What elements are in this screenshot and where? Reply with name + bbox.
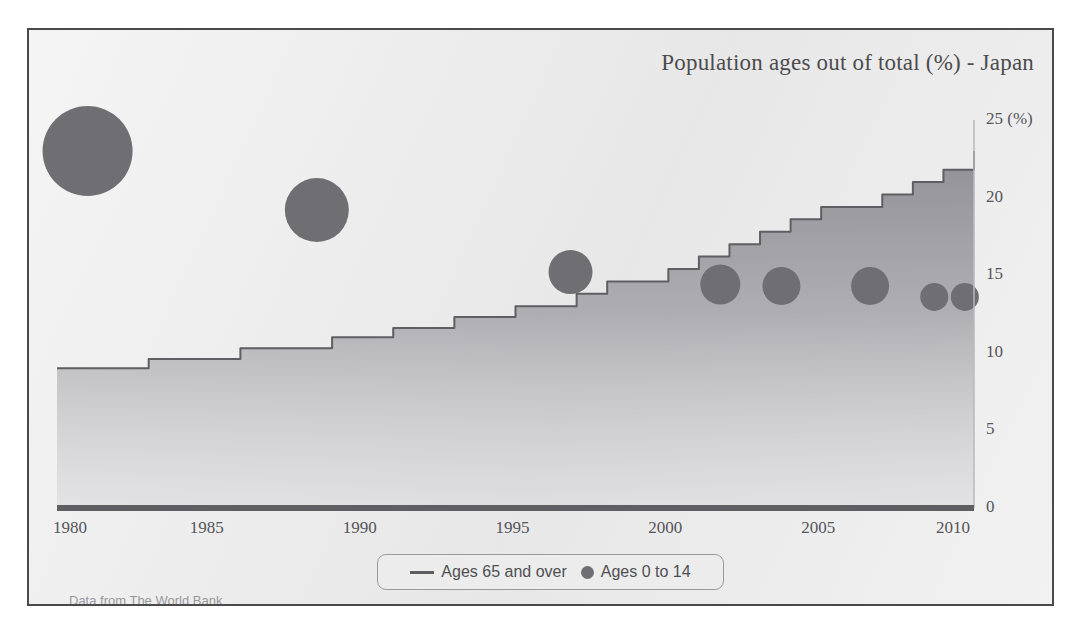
bubble-point: [285, 178, 349, 242]
x-axis-tick-label: 2000: [648, 518, 682, 538]
bubble-point: [920, 283, 948, 311]
bubble-point: [700, 265, 740, 305]
source-attribution: Data from The World Bank: [69, 593, 222, 606]
y-axis-tick-label: 0: [986, 497, 995, 517]
bubble-point: [762, 267, 800, 305]
legend-label-ages-0-to-14: Ages 0 to 14: [601, 563, 691, 581]
y-axis-tick-label: 5: [986, 419, 995, 439]
x-axis-tick-label: 1990: [343, 518, 377, 538]
bubble-point: [43, 106, 133, 196]
line-swatch-icon: [410, 571, 434, 574]
legend-entry-ages-0-to-14[interactable]: Ages 0 to 14: [581, 563, 691, 581]
series-ages-65-and-over: [57, 151, 974, 508]
area-fill-path: [57, 151, 974, 508]
x-axis-tick-label: 1980: [53, 518, 87, 538]
y-axis-tick-label: 25 (%): [986, 109, 1033, 129]
legend-label-ages-65-and-over: Ages 65 and over: [441, 563, 566, 581]
bubble-point: [549, 250, 593, 294]
y-axis-tick-label: 15: [986, 264, 1003, 284]
x-axis-tick-label: 2010: [936, 518, 970, 538]
chart-legend[interactable]: Ages 65 and over Ages 0 to 14: [377, 554, 724, 590]
y-axis-tick-label: 20: [986, 187, 1003, 207]
x-axis-tick-label: 1995: [496, 518, 530, 538]
x-axis-tick-label: 2005: [801, 518, 835, 538]
bubble-point: [851, 267, 889, 305]
chart-frame: Population ages out of total (%) - Japan: [27, 28, 1054, 606]
screenshot-page: Population ages out of total (%) - Japan: [0, 0, 1084, 634]
plot-area: 0510152025 (%) 1980198519901995200020052…: [29, 30, 1052, 604]
chart-plot-svg: [29, 30, 1052, 604]
dot-swatch-icon: [581, 566, 594, 579]
x-axis-tick-label: 1985: [190, 518, 224, 538]
legend-entry-ages-65-and-over[interactable]: Ages 65 and over: [410, 563, 566, 581]
y-axis-tick-label: 10: [986, 342, 1003, 362]
